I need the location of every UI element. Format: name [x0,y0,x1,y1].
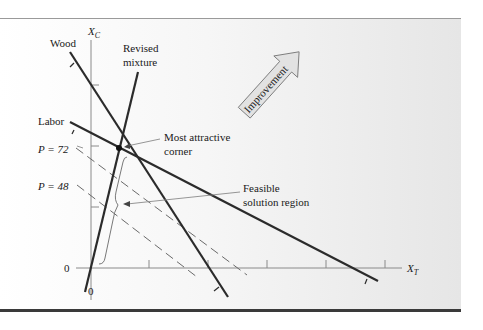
p72-label: P = 72 [37,143,69,155]
feasible-callout-arrowhead [123,201,130,207]
labor-hatch-left [72,130,74,134]
corner-callout-leader [127,139,160,146]
wood-hatch-top [70,63,74,67]
wood-hatch-bottom [214,287,219,291]
corner-label-1: Most attractive [164,131,230,143]
feasible-label-2: solution region [243,196,310,208]
x-axis-label: XT [406,262,419,277]
revised-mixture-label-2: mixture [123,56,157,68]
revised-mixture-label-1: Revised [123,42,159,54]
optimal-corner-point [116,145,122,151]
revised-mixture-line [85,72,138,292]
labor-label: Labor [38,115,65,127]
improvement-arrow: Improvement [232,41,311,123]
origin-x-label: 0 [88,285,94,297]
origin-y-label: 0 [64,262,70,274]
lp-graph: Improvement XC XT 0 0 Wood Labor Revised… [0,0,483,330]
y-axis-label: XC [87,25,101,40]
corner-label-2: corner [164,145,192,157]
y-axis-ticks [91,85,99,207]
corner-callout-arrowhead [124,143,130,149]
labor-hatch-right [365,279,367,284]
feasible-label-1: Feasible [243,182,280,194]
wood-label: Wood [50,37,77,49]
improvement-label: Improvement [241,63,290,115]
profit-line-72 [76,148,247,275]
p72-label-leader [77,146,83,148]
p48-label: P = 48 [37,180,69,192]
